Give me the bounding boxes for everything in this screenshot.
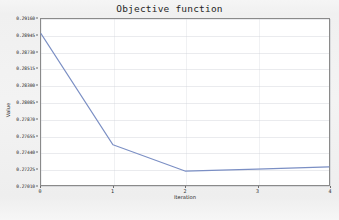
y-axis-tick-mark bbox=[36, 135, 38, 136]
y-axis-tick-labels: 0.291600.289450.287300.285150.283000.280… bbox=[0, 18, 38, 186]
y-axis-tick-label: 0.28300 bbox=[16, 83, 35, 88]
y-axis-tick-mark bbox=[36, 169, 38, 170]
y-axis-tick-label: 0.28730 bbox=[16, 49, 35, 54]
y-axis-tick-label: 0.28085 bbox=[16, 100, 35, 105]
data-line bbox=[41, 34, 329, 171]
x-axis-tick-mark bbox=[40, 186, 41, 188]
y-axis-tick-mark bbox=[36, 51, 38, 52]
plot-area bbox=[40, 18, 330, 186]
y-axis-tick-mark bbox=[36, 18, 38, 19]
y-axis-tick-mark bbox=[36, 68, 38, 69]
y-axis-tick-label: 0.29160 bbox=[16, 16, 35, 21]
y-axis-tick-mark bbox=[36, 118, 38, 119]
y-axis-tick-label: 0.27225 bbox=[16, 167, 35, 172]
y-axis-tick-label: 0.27440 bbox=[16, 150, 35, 155]
y-axis-tick-label: 0.27870 bbox=[16, 116, 35, 121]
x-axis-tick-mark bbox=[113, 186, 114, 188]
y-axis-tick-label: 0.28515 bbox=[16, 66, 35, 71]
y-axis-tick-mark bbox=[36, 85, 38, 86]
x-axis-tick-mark bbox=[185, 186, 186, 188]
series-line-objective-function bbox=[41, 19, 329, 185]
x-axis-tick-mark bbox=[258, 186, 259, 188]
x-axis-tick-mark bbox=[330, 186, 331, 188]
y-axis-tick-mark bbox=[36, 186, 38, 187]
figure-caption bbox=[0, 211, 339, 220]
y-axis-tick-label: 0.27010 bbox=[16, 184, 35, 189]
y-axis-tick-mark bbox=[36, 152, 38, 153]
y-axis-tick-label: 0.28945 bbox=[16, 32, 35, 37]
gridline-vertical bbox=[330, 19, 331, 185]
x-axis-title: Iteration bbox=[40, 194, 330, 200]
chart-figure: Objective function Value 0.291600.289450… bbox=[0, 0, 339, 220]
y-axis-tick-mark bbox=[36, 102, 38, 103]
chart-title: Objective function bbox=[0, 3, 339, 14]
y-axis-tick-mark bbox=[36, 34, 38, 35]
y-axis-tick-label: 0.27655 bbox=[16, 133, 35, 138]
